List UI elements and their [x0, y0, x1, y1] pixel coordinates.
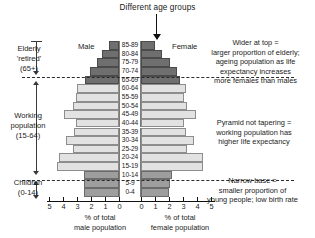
- bracket-label-line: (15-64): [0, 131, 56, 141]
- axis-tick-label: 2: [164, 202, 176, 211]
- axis-caption-line: % of total: [140, 213, 220, 223]
- age-group-label: 45-49: [119, 110, 141, 119]
- pyramid-band: 55-59: [0, 93, 315, 102]
- age-group-label: 20-24: [119, 153, 141, 162]
- bar-female: [141, 171, 172, 180]
- bar-male: [84, 188, 119, 197]
- bar-male: [77, 84, 119, 93]
- bracket-label-line: (65+): [2, 64, 56, 74]
- axis-tick-label: 2: [86, 202, 98, 211]
- bar-male: [57, 162, 119, 171]
- annotation-middle: Pyramid not tapering =working population…: [193, 118, 315, 147]
- annotation-line: young people; low birth rate: [190, 195, 315, 205]
- age-group-label: 10-14: [119, 171, 141, 180]
- bracket-label-line: Elderly: [2, 44, 56, 54]
- bar-male: [66, 136, 119, 145]
- axis-tick: [105, 197, 106, 201]
- bar-female: [141, 145, 187, 154]
- bar-male: [97, 58, 119, 67]
- bar-female: [141, 93, 184, 102]
- axis-tick-label: 5: [44, 202, 56, 211]
- age-group-label: 80-84: [119, 50, 141, 59]
- age-group-label: 55-59: [119, 93, 141, 102]
- title-arrow-head-icon: [153, 34, 161, 40]
- title-arrow-shaft: [156, 14, 157, 36]
- bracket-label-working: Workingpopulation(15-64): [0, 111, 56, 140]
- axis-tick-label: 3: [178, 202, 190, 211]
- annotation-line: expectancy increases: [196, 67, 315, 77]
- annotation-line: more females than males: [196, 76, 315, 86]
- annotation-line: larger proportion of elderly;: [196, 48, 315, 58]
- bar-male: [84, 171, 119, 180]
- bracket-working-arrow-down-icon: [33, 171, 39, 175]
- axis-tick-label: 0: [114, 202, 126, 211]
- age-group-label: 35-39: [119, 128, 141, 137]
- age-group-label: 60-64: [119, 84, 141, 93]
- axis-tick-label: 1: [150, 202, 162, 211]
- annotation-line: working population has: [193, 128, 315, 138]
- axis-tick: [49, 197, 50, 201]
- age-group-label: 0-4: [119, 188, 141, 197]
- bar-female: [141, 136, 194, 145]
- axis-caption-line: female population: [140, 223, 220, 233]
- bar-female: [141, 67, 177, 76]
- axis-caption-line: male population: [62, 223, 138, 233]
- age-group-label: 15-19: [119, 162, 141, 171]
- x-axis-caption-male: % of totalmale population: [62, 213, 138, 232]
- pyramid-band: 50-54: [0, 102, 315, 111]
- bar-female: [141, 128, 186, 137]
- bar-male: [73, 102, 119, 111]
- annotation-line: ageing population as life: [196, 57, 315, 67]
- age-group-label: 50-54: [119, 102, 141, 111]
- annotation-line: Narrow base =: [190, 176, 315, 186]
- bar-female: [141, 102, 187, 111]
- bar-female: [141, 162, 203, 171]
- bar-female: [141, 41, 155, 50]
- axis-tick-label: 4: [58, 202, 70, 211]
- bar-male: [109, 41, 119, 50]
- axis-tick: [169, 197, 170, 201]
- bar-female: [141, 84, 186, 93]
- bar-male: [74, 128, 119, 137]
- pyramid-band: 20-24: [0, 153, 315, 162]
- bar-male: [64, 110, 119, 119]
- bar-male: [102, 50, 119, 59]
- age-group-label: 85-89: [119, 41, 141, 50]
- bracket-label-children: Children(0-14): [2, 178, 54, 198]
- bar-female: [141, 110, 196, 119]
- bracket-label-elderly: Elderly'retired'(65+): [2, 44, 56, 73]
- annotation-line: Wider at top =: [196, 38, 315, 48]
- bracket-label-line: 'retired': [2, 54, 56, 64]
- annotation-bottom: Narrow base =smaller proportion ofyoung …: [190, 176, 315, 205]
- axis-tick-label: 0: [136, 202, 148, 211]
- bar-male: [76, 119, 119, 128]
- annotation-line: smaller proportion of: [190, 186, 315, 196]
- axis-tick: [119, 197, 120, 201]
- age-group-label: 40-44: [119, 119, 141, 128]
- age-group-label: 75-79: [119, 58, 141, 67]
- axis-tick-label: 3: [72, 202, 84, 211]
- bar-female: [141, 188, 169, 197]
- annotation-top: Wider at top =larger proportion of elder…: [196, 38, 315, 86]
- bar-female: [141, 153, 203, 162]
- bar-female: [141, 50, 162, 59]
- axis-caption-line: % of total: [62, 213, 138, 223]
- axis-tick: [155, 197, 156, 201]
- bracket-label-line: population: [0, 121, 56, 131]
- bar-female: [141, 58, 170, 67]
- age-group-label: 30-34: [119, 136, 141, 145]
- bracket-label-line: (0-14): [2, 188, 54, 198]
- axis-tick: [91, 197, 92, 201]
- annotation-line: higher life expectancy: [193, 137, 315, 147]
- age-group-label: 25-29: [119, 145, 141, 154]
- bar-male: [59, 153, 119, 162]
- bracket-label-line: Children: [2, 178, 54, 188]
- axis-tick: [77, 197, 78, 201]
- bar-male: [76, 93, 119, 102]
- axis-tick-label: 1: [100, 202, 112, 211]
- pyramid-band: 15-19: [0, 162, 315, 171]
- axis-tick: [141, 197, 142, 201]
- age-group-label: 70-74: [119, 67, 141, 76]
- bar-male: [73, 145, 119, 154]
- chart-title: Different age groups: [0, 3, 315, 12]
